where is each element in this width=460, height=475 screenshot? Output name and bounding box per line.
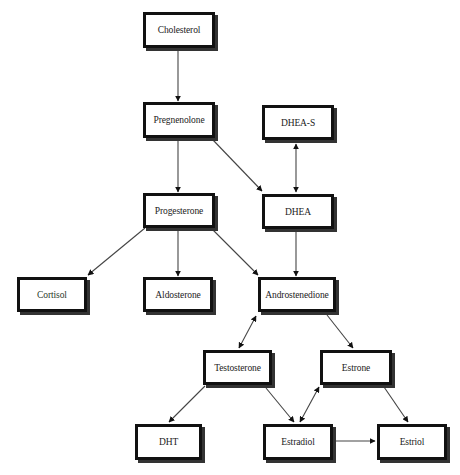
edge-progesterone-androstenedione <box>213 230 258 275</box>
node-label: Testosterone <box>214 363 261 373</box>
node-androstenedione: Androstenedione <box>258 277 336 312</box>
node-label: Aldosterone <box>155 290 200 300</box>
node-cortisol: Cortisol <box>17 277 87 312</box>
node-label: DHEA <box>285 207 311 217</box>
edge-testosterone-estradiol <box>266 388 294 422</box>
edge-androstenedione-estrone <box>327 315 353 348</box>
node-estrone: Estrone <box>320 350 392 385</box>
edge-pregnenolone-dhea <box>213 140 262 191</box>
node-label: Pregnenolone <box>153 115 204 125</box>
node-label: DHEA-S <box>281 118 315 128</box>
node-testosterone: Testosterone <box>203 350 272 385</box>
edge-estrone-estriol <box>384 387 408 422</box>
edge-androstenedione-testosterone <box>239 316 256 348</box>
node-label: DHT <box>159 437 178 447</box>
node-label: Estrone <box>342 363 370 373</box>
node-label: Estriol <box>400 437 425 447</box>
node-pregnenolone: Pregnenolone <box>143 102 215 138</box>
node-aldosterone: Aldosterone <box>143 277 213 312</box>
node-label: Progesterone <box>155 206 203 216</box>
steroid-pathway-diagram: Cholesterol Pregnenolone DHEA-S Progeste… <box>0 0 460 475</box>
edge-testosterone-dht <box>169 386 205 422</box>
edge-estrone-estradiol <box>300 387 319 422</box>
node-label: Cortisol <box>37 290 67 300</box>
node-estriol: Estriol <box>377 424 447 460</box>
edge-progesterone-cortisol <box>88 228 145 275</box>
node-label: Estradiol <box>281 437 314 447</box>
node-label: Cholesterol <box>158 25 201 35</box>
node-cholesterol: Cholesterol <box>143 12 215 48</box>
node-label: Androstenedione <box>265 290 328 300</box>
edges-layer <box>0 0 460 475</box>
node-dht: DHT <box>135 424 202 460</box>
node-estradiol: Estradiol <box>263 424 333 460</box>
node-dhea-s: DHEA-S <box>262 105 334 140</box>
node-progesterone: Progesterone <box>143 193 215 228</box>
node-dhea: DHEA <box>262 194 334 229</box>
